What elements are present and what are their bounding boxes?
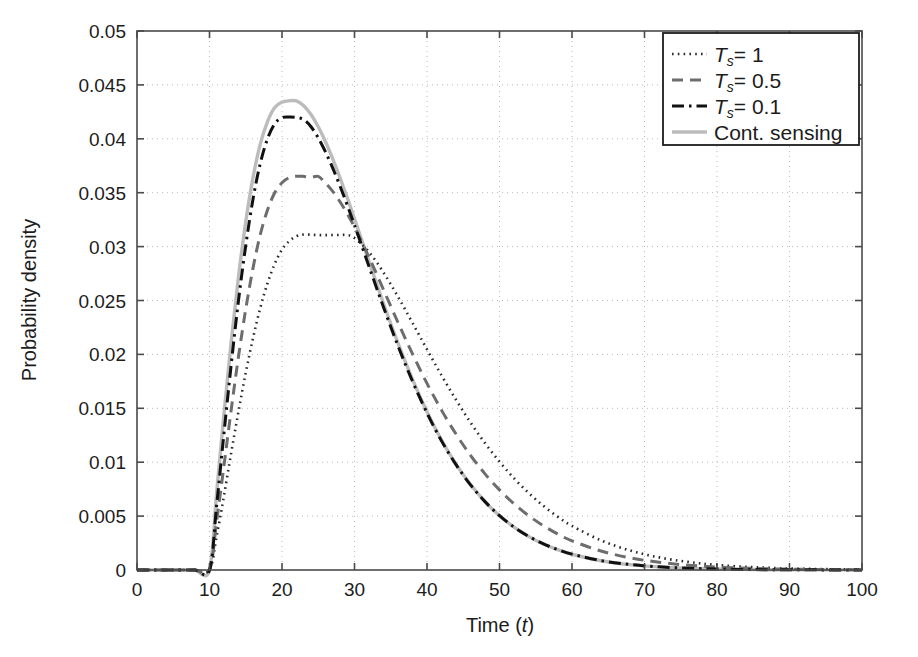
y-tick-label: 0.035 bbox=[78, 183, 126, 204]
legend-label-cont: Cont. sensing bbox=[714, 121, 842, 144]
x-tick-label: 70 bbox=[634, 579, 655, 600]
x-tick-label: 100 bbox=[846, 579, 878, 600]
y-tick-label: 0.02 bbox=[89, 344, 126, 365]
y-tick-label: 0.005 bbox=[78, 506, 126, 527]
y-tick-label: 0.01 bbox=[89, 452, 126, 473]
y-tick-label: 0 bbox=[115, 560, 126, 581]
legend-label-ts-05: Ts= 0.5 bbox=[714, 69, 781, 95]
y-tick-label: 0.015 bbox=[78, 398, 126, 419]
y-tick-label: 0.04 bbox=[89, 129, 126, 150]
x-tick-label: 10 bbox=[199, 579, 220, 600]
x-tick-label: 50 bbox=[489, 579, 510, 600]
y-tick-label: 0.045 bbox=[78, 75, 126, 96]
legend-label-ts-01: Ts= 0.1 bbox=[714, 95, 781, 121]
probability-density-chart: 0102030405060708090100 00.0050.010.0150.… bbox=[0, 0, 918, 657]
x-tick-label: 80 bbox=[706, 579, 727, 600]
x-tick-label: 30 bbox=[344, 579, 365, 600]
y-tick-label: 0.025 bbox=[78, 291, 126, 312]
x-tick-label: 0 bbox=[132, 579, 143, 600]
y-tick-label: 0.03 bbox=[89, 237, 126, 258]
y-tick-label: 0.05 bbox=[89, 21, 126, 42]
figure-container: 0102030405060708090100 00.0050.010.0150.… bbox=[0, 0, 918, 657]
svg-text:Time (t): Time (t) bbox=[466, 614, 534, 636]
x-tick-label: 20 bbox=[271, 579, 292, 600]
x-tick-label: 90 bbox=[779, 579, 800, 600]
chart-legend[interactable]: Ts= 1Ts= 0.5Ts= 0.1Cont. sensing bbox=[663, 33, 859, 145]
y-axis-title: Probability density bbox=[18, 219, 40, 381]
x-tick-label: 40 bbox=[416, 579, 437, 600]
x-tick-label: 60 bbox=[561, 579, 582, 600]
svg-text:Probability density: Probability density bbox=[18, 219, 40, 381]
legend-label-ts-1: Ts= 1 bbox=[714, 43, 764, 69]
x-axis-title: Time (t) bbox=[466, 614, 534, 636]
